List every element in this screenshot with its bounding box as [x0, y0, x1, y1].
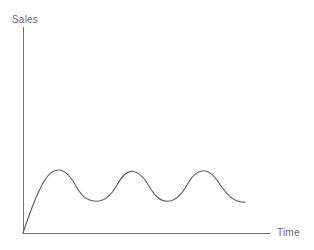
y-axis-label: Sales — [12, 14, 38, 25]
x-axis-label: Time — [277, 227, 300, 238]
sales-curve — [23, 170, 245, 233]
line-chart-plot: Sales Time — [0, 0, 314, 250]
chart-container: Sales Time — [0, 0, 314, 250]
